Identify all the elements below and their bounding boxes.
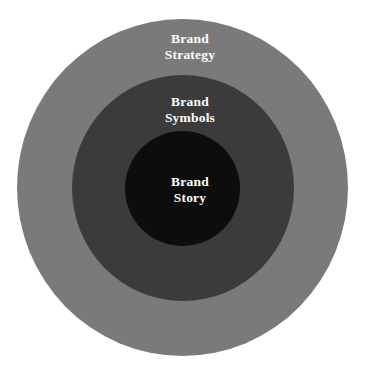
label-brand-story: Brand Story	[90, 174, 290, 207]
label-brand-strategy: Brand Strategy	[90, 31, 290, 64]
label-brand-strategy-line2: Strategy	[90, 47, 290, 63]
label-brand-symbols-line2: Symbols	[90, 110, 290, 126]
concentric-circles-diagram: Brand Strategy Brand Symbols Brand Story	[0, 0, 368, 378]
label-brand-story-line1: Brand	[90, 174, 290, 190]
label-brand-symbols: Brand Symbols	[90, 94, 290, 127]
label-brand-symbols-line1: Brand	[90, 94, 290, 110]
label-brand-strategy-line1: Brand	[90, 31, 290, 47]
label-brand-story-line2: Story	[90, 190, 290, 206]
